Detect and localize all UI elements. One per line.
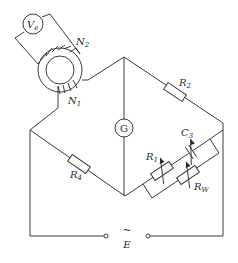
ac-tilde: ~ (123, 224, 131, 235)
source-label: E (122, 239, 131, 250)
n2-label: N2 (75, 36, 90, 49)
variable-capacitor-c3 (179, 138, 204, 165)
voltmeter: Ve (23, 14, 43, 34)
r2-label: R2 (178, 77, 192, 90)
ac-source: ~ E (104, 224, 150, 250)
bridge-circuit-diagram: Ve N2 N1 G R2 R4 R1 C3 RW (0, 0, 238, 263)
r1-c3-rw-network (143, 130, 223, 198)
rw-label: RW (193, 181, 210, 194)
n1-label: N1 (67, 95, 81, 108)
galvanometer: G (115, 119, 133, 137)
r1-label: R1 (145, 151, 158, 164)
c3-label: C3 (181, 127, 194, 140)
r4-label: R4 (69, 169, 82, 182)
galvanometer-label: G (120, 123, 128, 134)
